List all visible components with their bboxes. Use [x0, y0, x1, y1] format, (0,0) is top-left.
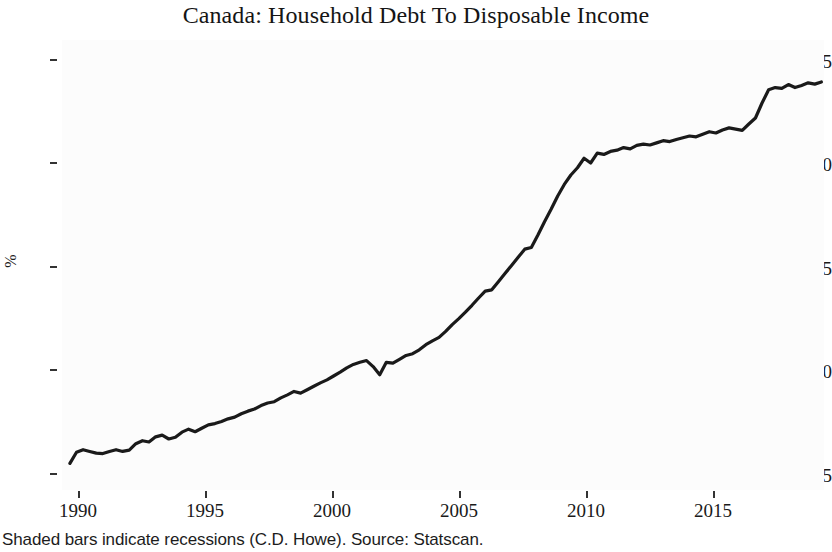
chart-caption: Shaded bars indicate recessions (C.D. Ho… [2, 530, 483, 550]
x-tick-mark-2005 [459, 491, 461, 498]
x-tick-label-1990: 1990 [33, 501, 123, 520]
panel-background [62, 40, 824, 490]
x-tick-mark-2000 [332, 491, 334, 498]
chart-figure: Canada: Household Debt To Disposable Inc… [0, 0, 832, 552]
data-line-svg [62, 40, 824, 490]
x-tick-mark-2010 [586, 491, 588, 498]
x-tick-mark-2015 [713, 491, 715, 498]
x-tick-label-2015: 2015 [668, 501, 758, 520]
x-tick-label-2000: 2000 [287, 501, 377, 520]
x-tick-mark-1990 [78, 491, 80, 498]
x-tick-mark-1995 [205, 491, 207, 498]
x-tick-label-1995: 1995 [160, 501, 250, 520]
x-tick-label-2010: 2010 [541, 501, 631, 520]
x-tick-label-2005: 2005 [414, 501, 504, 520]
plot-panel [62, 40, 824, 490]
